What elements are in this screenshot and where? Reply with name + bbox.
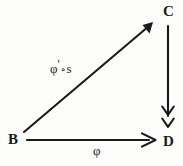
vertex-label-c: C (163, 4, 174, 19)
arrow-c-to-d-head-lower (162, 119, 174, 127)
phi-glyph: φ (50, 61, 58, 76)
edge-label-b-to-c: φ'∘s (50, 58, 72, 75)
diagram-canvas (0, 0, 183, 166)
s-glyph: s (67, 61, 72, 76)
arrow-b-to-c-head (143, 22, 154, 33)
arrow-b-to-d (27, 133, 156, 146)
edge-label-b-to-d: φ (93, 144, 101, 157)
arrow-b-to-c (24, 22, 153, 132)
vertex-label-b: B (8, 132, 18, 147)
arrow-b-to-c-shaft (24, 26, 149, 132)
composition-circ-glyph: ∘ (60, 64, 67, 75)
commutative-diagram: B C D φ'∘s φ (0, 0, 183, 166)
vertex-label-d: D (163, 134, 174, 149)
arrow-c-to-d (162, 26, 174, 127)
